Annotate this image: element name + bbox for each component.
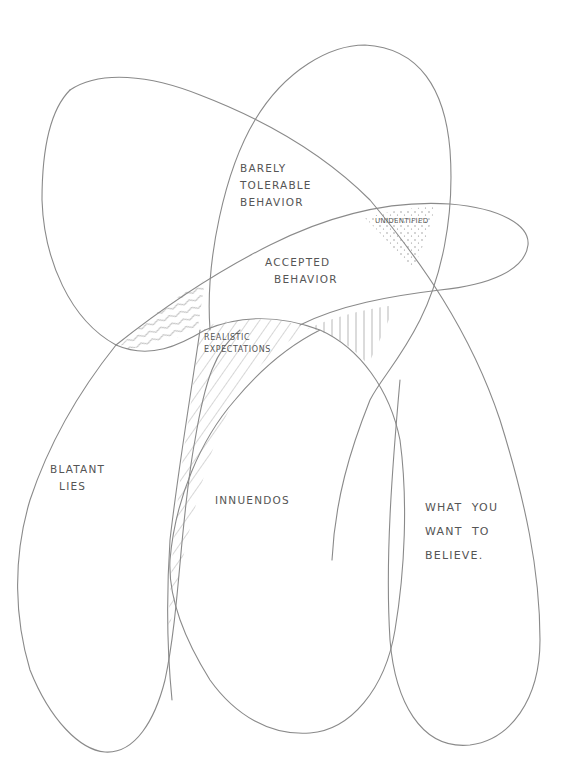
label-blatant-lies: BLATANT LIES xyxy=(50,461,105,495)
label-unidentified: UNIDENTIFIED xyxy=(375,213,428,230)
label-realistic-expectations: REALISTIC EXPECTATIONS xyxy=(204,332,271,356)
label-accepted-behavior: ACCEPTED BEHAVIOR xyxy=(265,254,338,288)
blob-top-center xyxy=(209,45,451,560)
diagram-drawing xyxy=(0,0,570,777)
venn-diagram: BARELY TOLERABLE BEHAVIOR UNIDENTIFIED A… xyxy=(0,0,570,777)
vertical-overlap-region xyxy=(310,305,395,365)
label-innuendos: INNUENDOS xyxy=(215,492,290,509)
label-barely-tolerable-behavior: BARELY TOLERABLE BEHAVIOR xyxy=(240,160,312,211)
label-what-you-want-to-believe: WHAT YOU WANT TO BELIEVE. xyxy=(425,496,498,568)
